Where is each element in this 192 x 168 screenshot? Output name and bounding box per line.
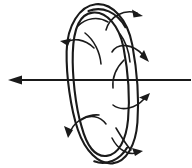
wisp-mid-right [113,60,124,88]
axis-arrowhead-left [8,76,22,85]
wisp-bottom-left [81,117,106,124]
flow-arrow-top-right-head [132,10,143,18]
torus-ring [60,1,145,167]
wisp-mid-left [85,33,101,64]
flow-arrow-upper-left [60,39,94,49]
horizontal-axis [8,76,191,85]
wisp-top-left [78,19,108,26]
flow-arrow-upper-left-head [60,39,71,47]
flow-arrow-upper-right [112,46,149,62]
flow-arrow-upper-right-head [140,50,150,62]
field-line-wisps [78,19,131,150]
flow-arrow-lower-right [113,93,150,109]
torus-field-diagram [0,0,192,168]
flow-arrow-upper-left-path [66,40,94,48]
diagram-canvas [0,0,192,168]
torus-inner-contour [67,10,136,159]
flow-arrow-lower-right-head [139,93,150,101]
flow-arrow-bottom-right-head [132,148,143,156]
